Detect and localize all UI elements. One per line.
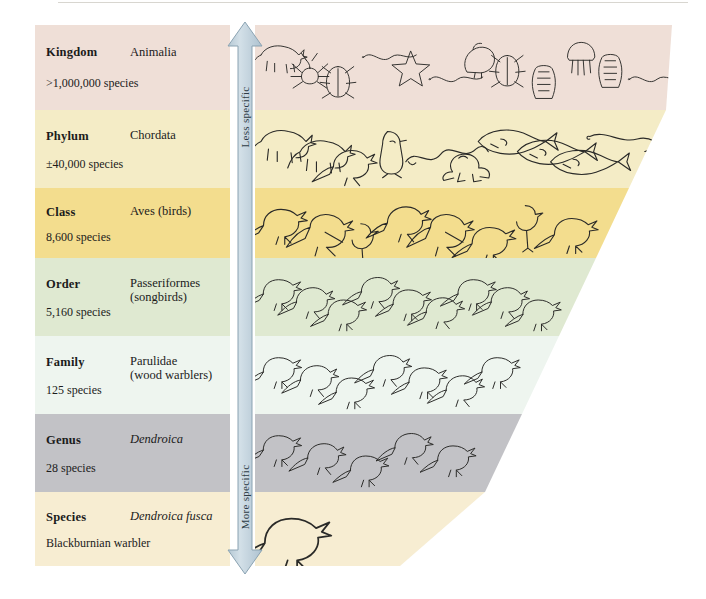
rank-band-class: ClassAves (birds)8,600 species [35, 188, 230, 258]
critter-sponge [599, 54, 622, 87]
rank-name-class: Class [46, 205, 75, 220]
critter-frog [443, 154, 489, 182]
critter-raptor [407, 215, 475, 256]
illustration-band-class [255, 188, 629, 258]
illustration-band-family [255, 336, 559, 414]
critter-bug [320, 67, 356, 99]
taxon-name-class: Aves (birds) [130, 204, 191, 218]
critter-bird2 [343, 278, 400, 309]
critter-row-kingdom [251, 42, 683, 98]
critter-flamingo [352, 224, 378, 270]
rank-name-kingdom: Kingdom [46, 45, 97, 60]
rank-name-order: Order [46, 277, 80, 292]
rank-band-order: OrderPasseriformes (songbirds)5,160 spec… [35, 258, 230, 336]
critter-penguin [380, 132, 406, 178]
critter-row-genus [246, 434, 477, 487]
critter-bird [311, 300, 367, 331]
critter-bird [505, 300, 561, 331]
rank-band-species: SpeciesDendroica fuscaBlackburnian warbl… [35, 492, 230, 566]
arrow-label-column: Less specific More specific [228, 22, 262, 574]
critter-flamingo [517, 206, 543, 252]
critter-mammal [288, 141, 356, 173]
critter-bird [333, 456, 389, 487]
illustration-band-kingdom [255, 25, 672, 110]
critter-bird2 [427, 376, 484, 407]
rank-band-genus: GenusDendroica28 species [35, 414, 230, 492]
taxon-name-order: Passeriformes (songbirds) [130, 276, 200, 304]
critter-star [392, 51, 430, 86]
taxon-name-phylum: Chordata [130, 128, 176, 142]
critter-bird2 [282, 366, 339, 397]
rank-name-species: Species [46, 510, 86, 525]
critter-bird2 [408, 298, 465, 329]
species-count-kingdom: >1,000,000 species [46, 76, 138, 91]
rank-band-phylum: PhylumChordata±40,000 species [35, 110, 230, 188]
illustration-band-order [255, 258, 596, 336]
critter-bird [420, 446, 476, 477]
critter-fish [517, 140, 597, 164]
critter-row-order [246, 278, 562, 331]
critter-bird2 [312, 151, 377, 186]
rank-band-family: FamilyParulidae (wood warblers)125 speci… [35, 336, 230, 414]
critter-fish [478, 130, 558, 154]
critter-bird [534, 218, 598, 253]
arrow-label-more-specific: More specific [239, 465, 251, 530]
rank-band-kingdom: KingdomAnimalia>1,000,000 species [35, 25, 230, 110]
critter-bug [489, 56, 525, 88]
rank-name-phylum: Phylum [46, 129, 89, 144]
critter-bird2 [472, 288, 529, 319]
taxon-name-species: Dendroica fusca [130, 509, 213, 523]
critter-snake [406, 146, 489, 164]
taxon-name-genus: Dendroica [130, 432, 183, 446]
critter-worm [429, 77, 483, 82]
species-count-genus: 28 species [46, 461, 96, 476]
critter-bird [440, 280, 496, 311]
critter-jelly [568, 42, 595, 75]
illustration-band-phylum [255, 110, 666, 188]
critter-fish [551, 150, 631, 174]
critter-bird2 [376, 434, 433, 465]
critter-bird [452, 228, 516, 263]
critter-raptor [286, 215, 354, 256]
illustration-band-genus [255, 414, 522, 492]
species-count-family: 125 species [46, 383, 102, 398]
critter-bird2 [355, 356, 412, 387]
taxonomy-funnel-figure: KingdomAnimalia>1,000,000 speciesPhylumC… [0, 0, 706, 599]
critter-bird2 [278, 288, 335, 319]
species-count-species: Blackburnian warbler [46, 536, 150, 551]
critter-row-phylum [249, 130, 668, 185]
critter-worm [628, 77, 682, 82]
critter-bird [464, 358, 520, 389]
critter-bird [319, 378, 375, 409]
critter-eel [587, 134, 667, 152]
illustration-band-species [255, 492, 485, 566]
critter-row-class [244, 206, 599, 270]
critter-bird2 [289, 444, 346, 475]
critter-worm [362, 55, 416, 60]
critter-mollusc [465, 43, 495, 78]
critter-row-family [246, 356, 521, 409]
rank-name-genus: Genus [46, 433, 81, 448]
arrow-label-less-specific: Less specific [239, 86, 251, 147]
taxon-name-kingdom: Animalia [130, 45, 177, 59]
critter-bird [391, 368, 447, 399]
species-count-phylum: ±40,000 species [46, 157, 123, 172]
taxon-name-family: Parulidae (wood warblers) [130, 354, 212, 382]
species-count-order: 5,160 species [46, 305, 111, 320]
critter-spider [291, 53, 329, 88]
rank-name-family: Family [46, 355, 85, 370]
species-count-class: 8,600 species [46, 230, 111, 245]
critter-sponge [532, 66, 555, 99]
critter-bird2 [366, 207, 431, 242]
critter-bird [375, 290, 431, 321]
